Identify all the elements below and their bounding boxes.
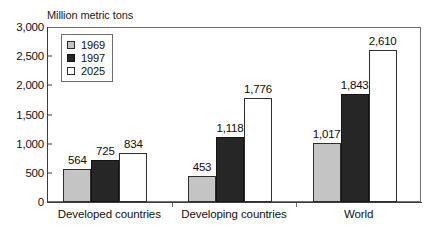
y-axis-line	[47, 27, 48, 203]
legend-item-1969: 1969	[67, 39, 105, 51]
bar-chart: Million metric tons 05001,0001,5002,0002…	[0, 0, 438, 245]
x-axis-line	[47, 202, 422, 203]
y-tick-label: 2,500	[16, 50, 44, 62]
bar-1997-developing-countries	[216, 137, 244, 202]
bar-value-label: 1,776	[244, 83, 272, 95]
bar-value-label: 1,843	[341, 79, 369, 91]
bar-2025-developed-countries	[119, 153, 147, 202]
x-category-label: Developing countries	[181, 208, 286, 220]
legend-label-1969: 1969	[81, 40, 105, 51]
legend-label-2025: 2025	[81, 66, 105, 77]
bar-1969-developed-countries	[63, 169, 91, 202]
bar-1997-developed-countries	[91, 160, 119, 202]
y-tick-label: 500	[25, 167, 44, 179]
y-tick-label: 1,500	[16, 109, 44, 121]
bar-value-label: 453	[193, 161, 212, 173]
legend-label-1997: 1997	[81, 53, 105, 64]
y-tick-label: 2,000	[16, 79, 44, 91]
legend: 1969 1997 2025	[61, 34, 113, 82]
y-axis-title: Million metric tons	[47, 9, 133, 21]
legend-item-2025: 2025	[67, 65, 105, 77]
bar-value-label: 1,118	[217, 122, 244, 134]
bar-value-label: 1,017	[313, 128, 341, 140]
bar-1969-developing-countries	[188, 176, 216, 202]
bar-2025-developing-countries	[244, 98, 272, 202]
y-tick-mark	[48, 172, 52, 173]
y-tick-mark	[48, 85, 52, 86]
bar-value-label: 564	[68, 154, 87, 166]
legend-swatch-icon-2025	[67, 67, 75, 75]
y-axis-tick-labels: 05001,0001,5002,0002,5003,000	[0, 0, 44, 245]
bar-value-label: 2,610	[369, 35, 397, 47]
y-tick-label: 3,000	[16, 21, 44, 33]
y-tick-mark	[48, 114, 52, 115]
bar-1969-world	[313, 143, 341, 202]
bar-value-label: 725	[96, 145, 115, 157]
y-tick-label: 1,000	[16, 138, 44, 150]
x-group-separator-tick	[172, 203, 173, 207]
bar-1997-world	[341, 94, 369, 202]
legend-item-1997: 1997	[67, 52, 105, 64]
y-tick-label: 0	[38, 196, 44, 208]
x-category-label: World	[344, 208, 373, 220]
legend-swatch-icon-1997	[67, 54, 75, 62]
x-group-separator-tick	[296, 203, 297, 207]
y-tick-mark	[48, 56, 52, 57]
bar-value-label: 834	[124, 138, 143, 150]
y-tick-mark	[48, 143, 52, 144]
x-category-label: Developed countries	[58, 208, 161, 220]
legend-swatch-icon-1969	[67, 41, 75, 49]
bar-2025-world	[369, 50, 397, 202]
